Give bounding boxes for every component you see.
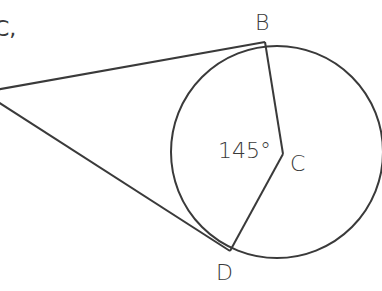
circle [171, 46, 382, 258]
label-d: D [216, 262, 233, 284]
radius-cd [230, 154, 283, 251]
label-b: B [255, 12, 269, 34]
geometry-figure [0, 0, 382, 291]
tangent-line-ab [0, 42, 265, 90]
label-c: C [290, 153, 305, 175]
cutoff-text: C, [0, 18, 16, 40]
tangent-line-ad [0, 100, 230, 251]
angle-label: 145° [218, 140, 271, 162]
